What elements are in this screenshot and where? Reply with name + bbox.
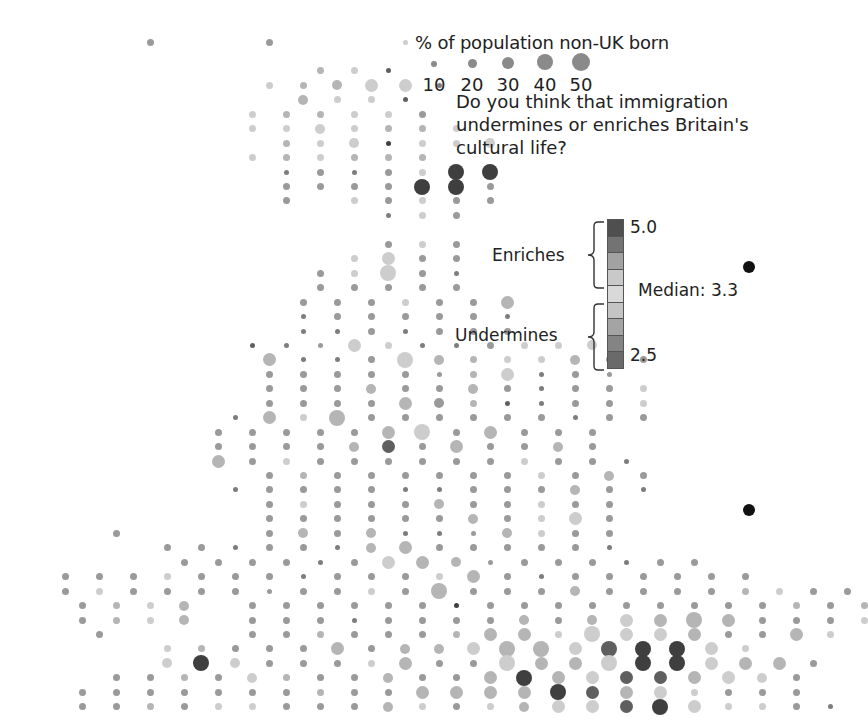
map-dot — [572, 371, 579, 378]
map-dot — [335, 329, 340, 334]
map-dot — [521, 429, 528, 436]
map-dot — [504, 414, 511, 421]
map-dot — [844, 588, 851, 595]
map-dot — [232, 573, 239, 580]
map-dot — [351, 559, 358, 566]
map-dot — [382, 426, 395, 439]
map-dot — [402, 385, 409, 392]
map-dot — [266, 530, 273, 537]
map-dot — [198, 588, 205, 595]
map-dot — [263, 353, 276, 366]
map-dot — [448, 179, 464, 195]
map-dot — [368, 660, 375, 667]
map-dot — [147, 39, 154, 46]
map-dot — [351, 429, 358, 436]
map-dot — [385, 631, 392, 638]
map-dot — [688, 700, 701, 713]
map-dot — [589, 559, 596, 566]
map-dot — [674, 573, 681, 580]
map-dot — [484, 686, 497, 699]
map-dot — [351, 255, 358, 262]
map-dot — [453, 703, 460, 710]
map-dot — [742, 588, 749, 595]
map-dot — [351, 284, 358, 291]
map-dot — [810, 588, 817, 595]
map-dot — [368, 501, 375, 508]
map-dot — [827, 602, 834, 609]
map-dot — [385, 241, 392, 248]
map-dot — [623, 602, 630, 609]
map-dot — [604, 471, 614, 481]
map-dot — [402, 313, 409, 320]
map-dot — [162, 658, 172, 668]
map-dot — [470, 501, 477, 508]
map-dot — [266, 82, 273, 89]
map-dot — [300, 544, 307, 551]
map-dot — [351, 197, 358, 204]
map-dot — [538, 414, 545, 421]
map-dot — [402, 472, 409, 479]
map-dot — [448, 164, 464, 180]
map-dot — [453, 212, 460, 219]
map-dot — [539, 386, 544, 391]
map-dot — [453, 631, 460, 638]
color-scale-step-5 — [607, 285, 624, 302]
map-dot — [691, 689, 698, 696]
map-dot — [810, 660, 817, 667]
map-dot — [385, 342, 392, 349]
color-scale-step-4 — [607, 269, 624, 286]
map-dot — [249, 631, 256, 638]
map-dot — [453, 429, 460, 436]
map-dot — [454, 603, 459, 608]
map-dot — [368, 414, 375, 421]
map-dot — [759, 617, 766, 624]
map-dot — [725, 631, 732, 638]
map-dot — [555, 602, 562, 609]
map-dot — [572, 472, 579, 479]
map-dot — [215, 674, 222, 681]
map-dot — [501, 296, 514, 309]
map-dot — [366, 528, 376, 538]
map-dot — [368, 96, 375, 103]
map-dot — [607, 545, 612, 550]
map-dot — [366, 384, 376, 394]
map-dot — [266, 385, 273, 392]
map-dot — [368, 573, 375, 580]
map-dot — [249, 443, 256, 450]
map-dot — [572, 400, 579, 407]
map-dot — [538, 530, 545, 537]
map-dot — [584, 626, 600, 642]
map-dot — [436, 385, 443, 392]
map-dot — [232, 645, 239, 652]
map-dot — [539, 372, 544, 377]
map-dot — [263, 411, 276, 424]
size-legend-title: % of population non-UK born — [415, 32, 669, 53]
map-dot — [147, 617, 154, 624]
map-dot — [385, 169, 392, 176]
map-dot — [351, 602, 358, 609]
map-dot — [505, 401, 510, 406]
map-dot — [419, 255, 426, 262]
map-dot — [385, 284, 392, 291]
map-dot — [334, 486, 341, 493]
map-dot — [538, 501, 545, 508]
map-dot — [453, 674, 460, 681]
map-dot — [334, 530, 341, 537]
map-dot — [487, 197, 494, 204]
map-dot — [386, 213, 391, 218]
map-dot — [283, 617, 290, 624]
map-dot — [572, 544, 579, 551]
map-dot — [468, 384, 478, 394]
map-dot — [419, 154, 426, 161]
map-dot — [454, 271, 459, 276]
map-dot — [538, 356, 545, 363]
map-dot — [79, 602, 86, 609]
scale-max-label: 5.0 — [630, 217, 657, 237]
map-dot — [419, 125, 426, 132]
map-dot — [552, 671, 565, 684]
map-dot — [317, 443, 324, 450]
map-dot — [317, 617, 324, 624]
map-dot — [419, 703, 426, 710]
map-dot — [414, 179, 430, 195]
map-dot — [317, 602, 324, 609]
